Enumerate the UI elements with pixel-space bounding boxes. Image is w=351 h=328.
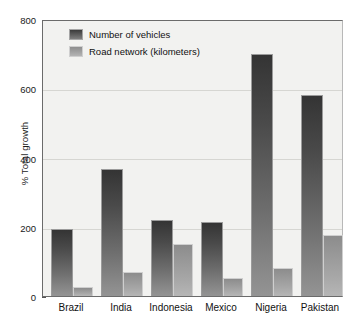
- y-tick-label-200: 200: [10, 224, 36, 234]
- bar-nigeria-road: [273, 268, 293, 296]
- bar-mexico-vehicles: [201, 222, 223, 296]
- bar-group-indonesia: [151, 21, 193, 296]
- bar-india-vehicles: [101, 169, 123, 296]
- y-tick-label-800: 800: [10, 16, 36, 26]
- legend-swatch-icon-road-network: [69, 46, 83, 57]
- y-tick-label-400: 400: [10, 155, 36, 165]
- bar-group-india: [101, 21, 143, 296]
- legend-label-vehicles: Number of vehicles: [89, 29, 170, 40]
- bar-indonesia-road: [173, 244, 193, 296]
- y-tick-mark-0: [42, 297, 46, 298]
- chart-legend: Number of vehicles Road network (kilomet…: [69, 27, 200, 61]
- bar-pakistan-vehicles: [301, 95, 323, 296]
- bar-mexico-road: [223, 278, 243, 296]
- y-axis-ticks: 800 600 400 200 0: [8, 0, 36, 328]
- bar-indonesia-vehicles: [151, 220, 173, 296]
- legend-label-road-network: Road network (kilometers): [89, 46, 200, 57]
- legend-item-vehicles: Number of vehicles: [69, 27, 200, 42]
- x-tick-label-pakistan: Pakistan: [290, 302, 350, 313]
- bar-group-nigeria: [251, 21, 293, 296]
- bar-nigeria-vehicles: [251, 54, 273, 296]
- bar-group-pakistan: [301, 21, 343, 296]
- bar-india-road: [123, 272, 143, 296]
- bar-brazil-road: [73, 287, 93, 296]
- bar-group-mexico: [201, 21, 243, 296]
- legend-swatch-icon-vehicles: [69, 29, 83, 40]
- plot-area: Number of vehicles Road network (kilomet…: [42, 20, 343, 297]
- bar-pakistan-road: [323, 235, 343, 296]
- legend-item-road-network: Road network (kilometers): [69, 44, 200, 59]
- bar-group-brazil: [51, 21, 93, 296]
- y-tick-label-0: 0: [10, 293, 36, 303]
- y-tick-label-600: 600: [10, 85, 36, 95]
- bar-brazil-vehicles: [51, 229, 73, 296]
- bar-chart: % Total growth 800 600 400 200 0: [0, 0, 351, 328]
